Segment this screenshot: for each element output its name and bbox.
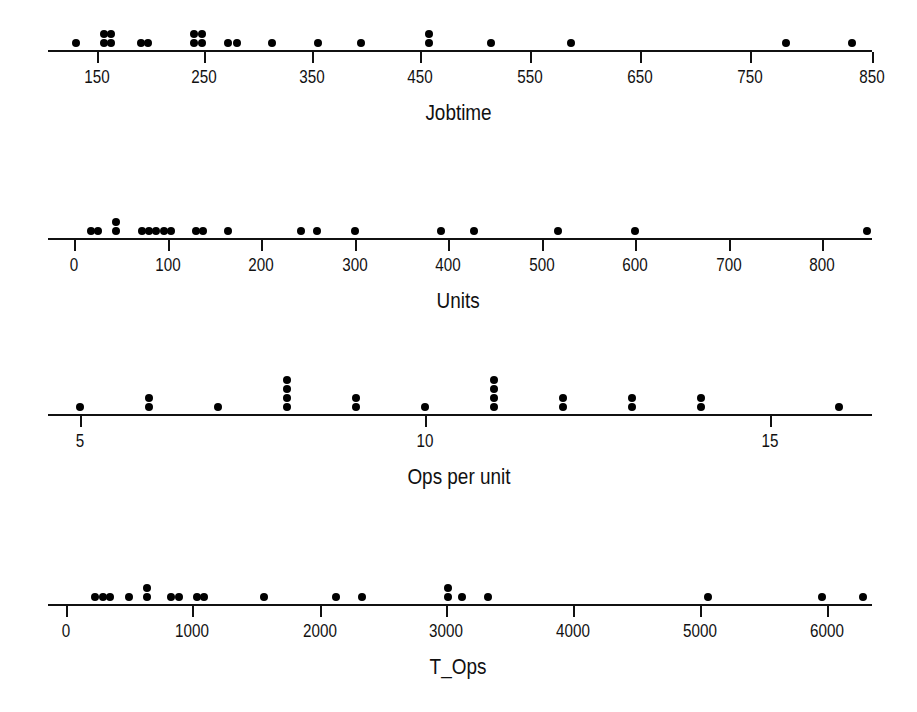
x-tick	[168, 240, 170, 251]
x-tick	[74, 240, 76, 251]
x-tick	[312, 52, 314, 63]
data-dot	[351, 227, 359, 235]
data-dot	[628, 394, 636, 402]
x-tick	[750, 52, 752, 63]
data-dot	[490, 376, 498, 384]
x-tick-label: 250	[172, 66, 236, 88]
x-tick	[97, 52, 99, 63]
x-axis-line	[48, 238, 872, 240]
data-dot	[143, 584, 151, 592]
x-tick-label: 600	[603, 254, 667, 276]
x-tick-label: 400	[416, 254, 480, 276]
data-dot	[554, 227, 562, 235]
x-tick-label: 300	[323, 254, 387, 276]
x-axis-title: Units	[0, 288, 917, 314]
data-dot	[352, 403, 360, 411]
data-dot	[357, 39, 365, 47]
data-dot	[145, 403, 153, 411]
x-tick-label: 750	[718, 66, 782, 88]
x-tick-label: 15	[738, 430, 802, 452]
data-dot	[314, 39, 322, 47]
data-dot	[283, 403, 291, 411]
data-dot	[559, 394, 567, 402]
x-tick-label: 800	[790, 254, 854, 276]
x-tick	[640, 52, 642, 63]
x-axis-title: Jobtime	[0, 100, 917, 126]
x-tick	[700, 606, 702, 617]
data-dot	[198, 30, 206, 38]
x-tick	[542, 240, 544, 251]
data-dot	[283, 394, 291, 402]
data-dot	[199, 227, 207, 235]
data-dot	[112, 227, 120, 235]
x-tick-label: 5	[48, 430, 112, 452]
data-dot	[91, 593, 99, 601]
x-tick-label: 3000	[414, 620, 478, 642]
x-tick	[872, 52, 874, 63]
data-dot	[268, 39, 276, 47]
x-axis-line	[48, 414, 872, 416]
data-dot	[470, 227, 478, 235]
x-tick	[822, 240, 824, 251]
x-tick	[80, 416, 82, 427]
x-tick-label: 2000	[288, 620, 352, 642]
data-dot	[143, 593, 151, 601]
data-dot	[214, 403, 222, 411]
data-dot	[233, 39, 241, 47]
x-tick-label: 100	[136, 254, 200, 276]
data-dot	[175, 593, 183, 601]
data-dot	[125, 593, 133, 601]
data-dot	[697, 403, 705, 411]
data-dot	[72, 39, 80, 47]
x-tick-label: 1000	[160, 620, 224, 642]
x-tick-label: 700	[697, 254, 761, 276]
data-dot	[167, 227, 175, 235]
data-dot	[848, 39, 856, 47]
data-dot	[332, 593, 340, 601]
x-tick	[320, 606, 322, 617]
x-axis-title: T_Ops	[0, 654, 917, 680]
x-tick-label: 550	[498, 66, 562, 88]
x-tick	[420, 52, 422, 63]
data-dot	[313, 227, 321, 235]
data-dot	[106, 593, 114, 601]
x-axis-title: Ops per unit	[0, 464, 917, 490]
data-dot	[425, 39, 433, 47]
x-tick	[204, 52, 206, 63]
data-dot	[198, 39, 206, 47]
x-tick	[635, 240, 637, 251]
data-dot	[437, 227, 445, 235]
x-axis-title-text: Jobtime	[425, 100, 491, 126]
data-dot	[421, 403, 429, 411]
data-dot	[145, 394, 153, 402]
x-tick	[573, 606, 575, 617]
x-tick-label: 650	[608, 66, 672, 88]
x-tick-label: 4000	[541, 620, 605, 642]
data-dot	[818, 593, 826, 601]
data-dot	[76, 403, 84, 411]
data-dot	[112, 218, 120, 226]
data-dot	[444, 593, 452, 601]
data-dot	[352, 394, 360, 402]
data-dot	[425, 30, 433, 38]
data-dot	[704, 593, 712, 601]
x-axis-title-text: Ops per unit	[407, 464, 510, 490]
x-tick-label: 450	[388, 66, 452, 88]
x-tick	[261, 240, 263, 251]
data-dot	[484, 593, 492, 601]
x-axis-title-text: T_Ops	[430, 654, 487, 680]
data-dot	[297, 227, 305, 235]
x-tick-label: 350	[280, 66, 344, 88]
data-dot	[358, 593, 366, 601]
data-dot	[458, 593, 466, 601]
x-tick	[355, 240, 357, 251]
x-tick	[770, 416, 772, 427]
data-dot	[559, 403, 567, 411]
data-dot	[144, 39, 152, 47]
data-dot	[283, 376, 291, 384]
data-dot	[490, 385, 498, 393]
x-tick-label: 200	[229, 254, 293, 276]
data-dot	[835, 403, 843, 411]
data-dot	[782, 39, 790, 47]
x-axis-line	[48, 604, 872, 606]
